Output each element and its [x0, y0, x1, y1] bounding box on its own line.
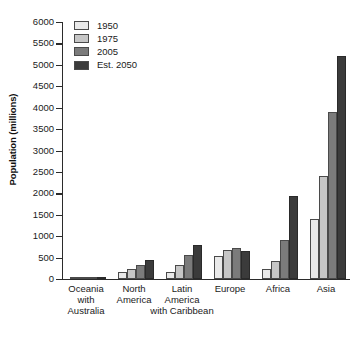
- bar: [88, 277, 97, 279]
- y-axis-tick-label: 500: [10, 253, 54, 263]
- bar: [166, 272, 175, 279]
- y-axis-tick-label: 5500: [10, 38, 54, 48]
- bar: [79, 277, 88, 279]
- y-axis-tick-mark: [56, 172, 62, 173]
- y-axis-tick-label: 5000: [10, 60, 54, 70]
- bar: [319, 176, 328, 279]
- y-axis-tick-label: 4000: [10, 103, 54, 113]
- bar: [310, 219, 319, 279]
- legend-swatch: [74, 61, 89, 70]
- bar: [184, 255, 193, 279]
- bar-group: [166, 22, 202, 279]
- bar: [127, 269, 136, 279]
- legend-label: 1975: [97, 34, 118, 44]
- bar: [328, 112, 337, 279]
- y-axis-tick-label: 1500: [10, 210, 54, 220]
- y-axis-tick-mark: [56, 65, 62, 66]
- y-axis-tick-mark: [56, 215, 62, 216]
- legend-label: 1950: [97, 21, 118, 31]
- chart-legend: 195019752005Est. 2050: [74, 20, 137, 71]
- y-axis-tick-mark: [56, 86, 62, 87]
- y-axis-tick-mark: [56, 129, 62, 130]
- bar: [175, 265, 184, 279]
- bar: [70, 277, 79, 279]
- y-axis-tick-label: 1000: [10, 231, 54, 241]
- bar: [193, 245, 202, 279]
- bar: [280, 240, 289, 279]
- y-axis-tick-mark: [56, 279, 62, 280]
- y-axis-tick-mark: [56, 151, 62, 152]
- bar-chart: Population (millions) 600055005000450040…: [0, 0, 354, 337]
- bar: [223, 250, 232, 279]
- bar: [271, 261, 280, 279]
- y-axis-tick-mark: [56, 43, 62, 44]
- y-axis-tick-label: 3500: [10, 124, 54, 134]
- x-axis-line: [62, 279, 350, 280]
- y-axis-tick-label: 6000: [10, 17, 54, 27]
- bar-group: [214, 22, 250, 279]
- y-axis-tick-label: 3000: [10, 146, 54, 156]
- bar: [214, 256, 223, 279]
- legend-label: Est. 2050: [97, 60, 137, 70]
- bar: [262, 269, 271, 279]
- bar: [97, 277, 106, 279]
- legend-swatch: [74, 21, 89, 30]
- y-axis-tick-mark: [56, 22, 62, 23]
- y-axis-tick-mark: [56, 108, 62, 109]
- bar: [145, 260, 154, 279]
- bar-group: [262, 22, 298, 279]
- y-axis-tick-mark: [56, 258, 62, 259]
- bar: [232, 248, 241, 279]
- y-axis-tick-label: 2500: [10, 167, 54, 177]
- bar: [118, 272, 127, 279]
- bar: [136, 265, 145, 279]
- y-axis-tick-label: 4500: [10, 81, 54, 91]
- x-axis-category-label: Asia: [282, 283, 354, 294]
- legend-swatch: [74, 47, 89, 56]
- legend-swatch: [74, 34, 89, 43]
- legend-item: 2005: [74, 46, 137, 57]
- bar-group: [310, 22, 346, 279]
- legend-item: 1950: [74, 20, 137, 31]
- y-axis-tick-mark: [56, 193, 62, 194]
- bar: [289, 196, 298, 279]
- bar: [241, 251, 250, 279]
- legend-item: 1975: [74, 33, 137, 44]
- legend-item: Est. 2050: [74, 60, 137, 71]
- bar: [337, 56, 346, 279]
- y-axis-line: [62, 22, 63, 280]
- legend-label: 2005: [97, 47, 118, 57]
- y-axis-tick-mark: [56, 236, 62, 237]
- y-axis-tick-label: 2000: [10, 188, 54, 198]
